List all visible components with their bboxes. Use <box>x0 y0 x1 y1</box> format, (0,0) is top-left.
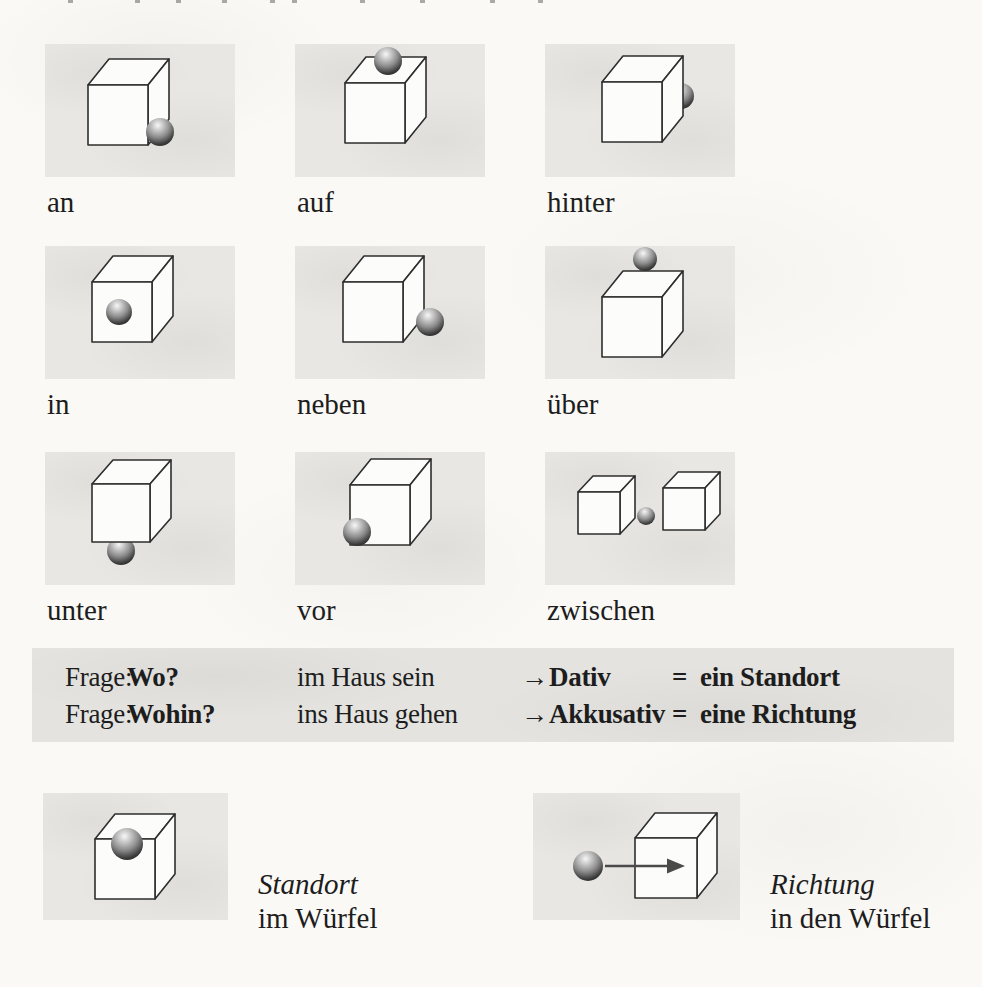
preposition-cell-auf: auf <box>295 44 485 217</box>
question-prefix: Frage: <box>65 662 132 693</box>
diagram-an <box>45 44 235 177</box>
figure-patch <box>295 44 485 177</box>
preposition-cell-in: in <box>45 246 235 419</box>
equals-sign: = <box>672 699 687 730</box>
preposition-label: über <box>547 389 735 419</box>
caption-term: Standort <box>258 867 377 901</box>
preposition-cell-ueber: über <box>545 246 735 419</box>
caption-term: Richtung <box>770 867 931 901</box>
cube <box>343 256 424 342</box>
caption-phrase: im Würfel <box>258 901 377 935</box>
caption-standort: Standort im Würfel <box>258 867 377 935</box>
ball <box>343 518 371 546</box>
diagram-zwischen <box>545 452 735 585</box>
case-name: Akkusativ <box>549 699 665 730</box>
preposition-label: auf <box>297 187 485 217</box>
preposition-cell-unter: unter <box>45 452 235 625</box>
cube-left <box>578 476 635 534</box>
figure-patch <box>45 246 235 379</box>
preposition-label: hinter <box>547 187 735 217</box>
scan-artifact-mark <box>176 0 181 3</box>
diagram-standort <box>43 793 228 920</box>
diagram-vor <box>295 452 485 585</box>
ball <box>573 851 603 881</box>
arrow-glyph: → <box>521 662 548 693</box>
cube <box>602 271 683 357</box>
scan-artifact-mark <box>292 0 297 3</box>
preposition-cell-hinter: hinter <box>545 44 735 217</box>
diagram-richtung <box>533 793 740 920</box>
figure-patch <box>295 452 485 585</box>
diagram-unter <box>45 452 235 585</box>
cube <box>635 813 717 898</box>
case-name: Dativ <box>549 662 611 693</box>
diagram-auf <box>295 44 485 177</box>
preposition-cell-neben: neben <box>295 246 485 419</box>
diagram-in <box>45 246 235 379</box>
ball <box>111 828 143 860</box>
scan-artifact-mark <box>360 0 365 3</box>
case-meaning: eine Richtung <box>700 699 856 730</box>
cube <box>602 56 683 142</box>
figure-patch <box>45 452 235 585</box>
ball <box>416 308 444 336</box>
caption-phrase: in den Würfel <box>770 901 931 935</box>
preposition-label: vor <box>297 595 485 625</box>
figure-patch <box>43 793 228 920</box>
figure-patch <box>545 246 735 379</box>
example-cell-standort <box>43 793 228 920</box>
cube <box>92 460 171 542</box>
rule-row-wohin: Frage: Wohin? ins Haus gehen → Akkusativ… <box>0 699 982 735</box>
preposition-label: unter <box>47 595 235 625</box>
preposition-cell-vor: vor <box>295 452 485 625</box>
preposition-label: zwischen <box>547 595 735 625</box>
example-phrase: im Haus sein <box>297 662 434 693</box>
ball <box>374 47 402 75</box>
scan-artifact-mark <box>135 0 140 3</box>
arrow-glyph: → <box>521 699 548 730</box>
scan-artifact-mark <box>538 0 543 3</box>
example-cell-richtung <box>533 793 740 920</box>
figure-patch <box>545 44 735 177</box>
question-word: Wo? <box>127 662 179 693</box>
scan-artifact-mark <box>68 0 73 3</box>
caption-richtung: Richtung in den Würfel <box>770 867 931 935</box>
ball <box>146 118 174 146</box>
scanned-textbook-page: an auf hin <box>0 0 982 987</box>
diagram-neben <box>295 246 485 379</box>
question-word: Wohin? <box>127 699 215 730</box>
diagram-ueber <box>545 246 735 379</box>
figure-patch <box>295 246 485 379</box>
diagram-hinter <box>545 44 735 177</box>
ball <box>637 507 655 525</box>
equals-sign: = <box>672 662 687 693</box>
rule-row-wo: Frage: Wo? im Haus sein → Dativ = ein St… <box>0 662 982 698</box>
figure-patch <box>545 452 735 585</box>
scan-artifact-mark <box>490 0 495 3</box>
preposition-cell-zwischen: zwischen <box>545 452 735 625</box>
preposition-label: in <box>47 389 235 419</box>
question-prefix: Frage: <box>65 699 132 730</box>
ball <box>106 299 132 325</box>
preposition-label: neben <box>297 389 485 419</box>
ball <box>633 247 657 271</box>
scan-artifact-mark <box>420 0 425 3</box>
figure-patch <box>45 44 235 177</box>
scan-artifact-mark <box>222 0 227 3</box>
figure-patch <box>533 793 740 920</box>
case-meaning: ein Standort <box>700 662 840 693</box>
cube-right <box>663 472 720 530</box>
preposition-label: an <box>47 187 235 217</box>
preposition-cell-an: an <box>45 44 235 217</box>
cube <box>92 256 173 342</box>
scan-artifact-mark <box>270 0 275 3</box>
example-phrase: ins Haus gehen <box>297 699 458 730</box>
